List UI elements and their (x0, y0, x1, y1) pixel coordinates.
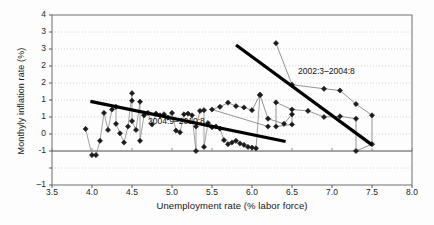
x-axis-title: Unemployment rate (% labor force) (52, 200, 412, 211)
data-point-marker (265, 116, 270, 121)
chart-figure: Monthyly inflation rate (%) Unemployment… (0, 0, 434, 225)
y-tick-label: 2 (26, 77, 46, 87)
x-tick-label: 5.0 (159, 187, 185, 197)
x-tick-label: 7.0 (319, 187, 345, 197)
data-point-marker (321, 86, 326, 91)
y-tick-label: -1 (26, 145, 46, 155)
data-point-marker (97, 138, 102, 143)
data-point-marker (93, 152, 98, 157)
data-point-marker (241, 105, 246, 110)
data-point-marker (137, 138, 142, 143)
data-point-marker (289, 122, 294, 127)
y-tick-label: 2 (26, 60, 46, 70)
x-tick-label: 8.0 (399, 187, 425, 197)
data-point-marker (117, 131, 122, 136)
x-tick-label: 4.0 (79, 187, 105, 197)
data-point-marker (125, 124, 130, 129)
data-point-marker (129, 98, 134, 103)
data-point-marker (113, 121, 118, 126)
x-tick-label: 6.0 (239, 187, 265, 197)
annotation-early-period: 2002:3–2004:8 (298, 66, 355, 76)
data-point-marker (83, 126, 88, 131)
series-line-1 (212, 43, 372, 151)
data-point-marker (193, 148, 198, 153)
data-point-marker (353, 116, 358, 121)
data-point-marker (265, 124, 270, 129)
data-point-marker (201, 108, 206, 113)
data-point-marker (273, 41, 278, 46)
x-tick-label: 7.5 (359, 187, 385, 197)
data-point-marker (133, 127, 138, 132)
data-point-marker (225, 100, 230, 105)
data-point-marker (121, 140, 126, 145)
data-point-marker (321, 114, 326, 119)
data-point-marker (305, 108, 310, 113)
data-point-marker (353, 148, 358, 153)
data-point-marker (129, 91, 134, 96)
y-axis-title: Monthyly inflation rate (%) (16, 26, 26, 176)
x-tick-label: 5.5 (199, 187, 225, 197)
data-point-marker (105, 127, 110, 132)
data-point-marker (209, 107, 214, 112)
x-tick-label: 6.5 (279, 187, 305, 197)
early-period-trendline (236, 45, 372, 145)
data-point-marker (253, 146, 258, 151)
data-point-marker (233, 104, 238, 109)
data-point-marker (249, 108, 254, 113)
data-point-marker (217, 104, 222, 109)
y-tick-label: 0 (26, 128, 46, 138)
y-tick-label: 4 (26, 9, 46, 19)
data-point-marker (129, 118, 134, 123)
y-tick-label: 1 (26, 111, 46, 121)
data-point-marker (273, 124, 278, 129)
data-point-marker (201, 144, 206, 149)
y-tick-label: 3 (26, 26, 46, 36)
data-point-marker (101, 110, 106, 115)
y-tick-label: 3 (26, 43, 46, 53)
x-tick-label: 4.5 (119, 187, 145, 197)
annotation-late-period: 2004:9–2010:8 (148, 116, 205, 126)
data-point-marker (273, 100, 278, 105)
x-tick-label: 3.5 (39, 187, 65, 197)
data-point-marker (257, 92, 262, 97)
y-tick-label: 1 (26, 94, 46, 104)
data-point-marker (137, 99, 142, 104)
